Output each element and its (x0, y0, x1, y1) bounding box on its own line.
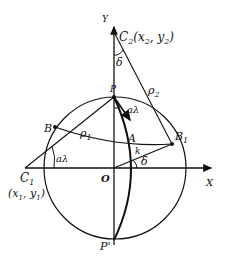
rho1-line (25, 97, 114, 168)
geometry-diagram: Y X O C2(x2, y2) C1 (x1, y1) P P' A B B1… (0, 0, 225, 263)
label-delta-top: δ (116, 56, 123, 69)
label-c1-coords: (x1, y1) (8, 187, 45, 202)
label-origin: O (101, 173, 110, 184)
label-p-prime: P' (99, 240, 110, 253)
label-x-axis: X (205, 177, 214, 188)
label-c1: C1 (20, 171, 34, 187)
point-b (53, 125, 57, 129)
label-y-axis: Y (102, 14, 109, 24)
point-b1 (170, 142, 174, 146)
label-b1: B1 (174, 130, 188, 145)
label-c2: C2(x2, y2) (119, 30, 174, 46)
label-alpha-lambda-left: aλ (56, 153, 68, 164)
angle-alpha-left (52, 146, 55, 168)
angle-delta-top (114, 50, 123, 55)
angle-delta-right (133, 160, 137, 168)
label-delta-right: δ (141, 155, 148, 168)
rho2-line (114, 32, 172, 144)
label-a: A (127, 132, 136, 145)
label-rho2: ρ2 (147, 84, 160, 99)
label-k: k (135, 146, 140, 156)
label-rho1: ρ1 (79, 127, 92, 142)
point-p (112, 95, 116, 99)
label-p: P (109, 84, 117, 94)
label-b: B (43, 122, 52, 135)
label-alpha-lambda-top: aλ (127, 104, 139, 115)
